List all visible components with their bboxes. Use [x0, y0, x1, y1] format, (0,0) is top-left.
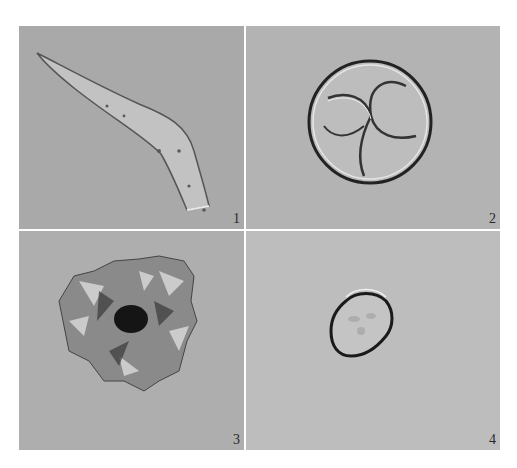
panel-label: 2: [489, 211, 496, 227]
specimen-round-cell-image: [246, 231, 500, 450]
panel-4: 4: [246, 231, 500, 450]
figure-plate: 1 2 3: [19, 26, 500, 450]
panel-label: 4: [489, 432, 496, 448]
panel-1: 1: [19, 26, 244, 229]
specimen-tetrad-image: [246, 26, 500, 229]
panel-label: 3: [233, 432, 240, 448]
panel-label: 1: [233, 211, 240, 227]
specimen-spiny-aggregate-image: [19, 231, 244, 450]
panel-2: 2: [246, 26, 500, 229]
panel-3: 3: [19, 231, 244, 450]
specimen-spindle-image: [19, 26, 244, 229]
